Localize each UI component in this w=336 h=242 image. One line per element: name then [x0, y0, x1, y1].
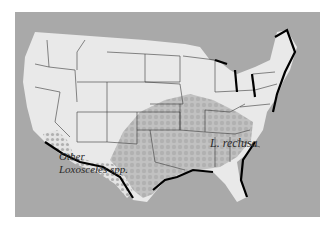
us-map [15, 12, 320, 217]
recluse-label: L. reclusa [210, 137, 258, 149]
other-label-line1: Other [59, 150, 85, 162]
map-frame: L. reclusa Other Loxosceles spp. [15, 12, 320, 217]
other-label-line2: Loxosceles spp. [59, 163, 128, 175]
